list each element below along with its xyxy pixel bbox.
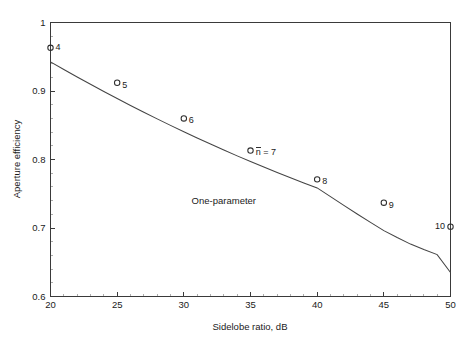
y-tick-label-0.6: 0.6 [32,291,45,302]
data-point-label: 8 [322,176,327,186]
data-point-label: 9 [389,200,394,210]
data-point-label: 4 [56,42,61,52]
one-parameter-curve-label: One-parameter [192,195,256,206]
x-tick-label-30: 30 [179,299,190,310]
y-tick-label-0.9: 0.9 [32,85,45,96]
y-axis-title: Aperture efficiency [11,120,22,199]
y-tick-label-0.7: 0.7 [32,222,45,233]
x-tick-label-35: 35 [245,299,256,310]
data-point-label: 6 [189,115,194,125]
data-point-label: 10 [435,221,445,231]
chart-figure: 4568910 20253035404550 0.60.70.80.91 Sid… [0,0,473,339]
data-point-label: 5 [122,80,127,90]
x-tick-label-50: 50 [445,299,456,310]
x-tick-label-25: 25 [112,299,123,310]
svg-text:n = 7: n = 7 [256,147,276,157]
x-axis-title: Sidelobe ratio, dB [213,321,288,332]
n-bar-equals-7-label: n = 7 [256,147,276,157]
x-tick-label-40: 40 [312,299,323,310]
y-tick-label-1: 1 [40,17,45,28]
aperture-efficiency-scatter-plot: 4568910 20253035404550 0.60.70.80.91 Sid… [0,0,473,339]
x-tick-label-20: 20 [45,299,56,310]
y-tick-label-0.8: 0.8 [32,154,45,165]
x-tick-label-45: 45 [379,299,390,310]
chart-background [0,0,473,339]
